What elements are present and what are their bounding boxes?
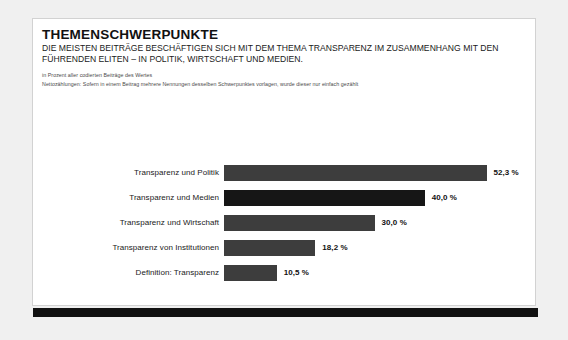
- bar-transparenz-und-medien: [224, 190, 425, 206]
- bar-category-label: Definition: Transparenz: [33, 261, 219, 285]
- bar-transparenz-und-wirtschaft: [224, 215, 375, 231]
- footer-rule: [33, 308, 538, 317]
- bar-value-label: 52,3 %: [494, 161, 519, 185]
- chart-subtitle: DIE MEISTEN BEITRÄGE BESCHÄFTIGEN SICH M…: [42, 43, 525, 64]
- bar-row: Transparenz und Politik 52,3 %: [33, 161, 535, 185]
- chart-card: THEMENSCHWERPUNKTE DIE MEISTEN BEITRÄGE …: [32, 18, 536, 306]
- bar-value-label: 10,5 %: [284, 261, 309, 285]
- bar-value-label: 30,0 %: [382, 211, 407, 235]
- bar-track: 18,2 %: [224, 236, 531, 260]
- bar-transparenz-und-politik: [224, 165, 487, 181]
- bar-chart-plot: Transparenz und Politik 52,3 % Transpare…: [33, 161, 535, 286]
- bar-row: Transparenz von Institutionen 18,2 %: [33, 236, 535, 260]
- chart-notes: in Prozent aller codierten Beiträge des …: [42, 71, 525, 88]
- chart-header: THEMENSCHWERPUNKTE DIE MEISTEN BEITRÄGE …: [42, 27, 525, 88]
- bar-row: Transparenz und Wirtschaft 30,0 %: [33, 211, 535, 235]
- bar-category-label: Transparenz und Wirtschaft: [33, 211, 219, 235]
- bar-track: 40,0 %: [224, 186, 531, 210]
- bar-category-label: Transparenz von Institutionen: [33, 236, 219, 260]
- page-title: THEMENSCHWERPUNKTE: [42, 27, 525, 42]
- bar-row: Definition: Transparenz 10,5 %: [33, 261, 535, 285]
- bar-definition-transparenz: [224, 265, 277, 281]
- bar-category-label: Transparenz und Politik: [33, 161, 219, 185]
- note-line-2: Nettozählungen: Sofern in einem Beitrag …: [42, 80, 525, 88]
- bar-track: 52,3 %: [224, 161, 531, 185]
- bar-track: 30,0 %: [224, 211, 531, 235]
- bar-transparenz-von-institutionen: [224, 240, 315, 256]
- note-line-1: in Prozent aller codierten Beiträge des …: [42, 71, 525, 79]
- bar-row: Transparenz und Medien 40,0 %: [33, 186, 535, 210]
- bar-category-label: Transparenz und Medien: [33, 186, 219, 210]
- bar-track: 10,5 %: [224, 261, 531, 285]
- bar-value-label: 40,0 %: [432, 186, 457, 210]
- bar-value-label: 18,2 %: [322, 236, 347, 260]
